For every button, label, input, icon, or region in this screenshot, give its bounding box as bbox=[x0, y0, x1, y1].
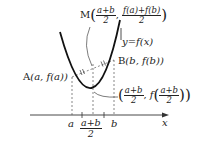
label-M: M(a+b2, f(a)+f(b)2) bbox=[80, 6, 167, 25]
label-curve: y=f(x) bbox=[122, 37, 153, 47]
tick-label-mid: a+b2 bbox=[80, 118, 102, 139]
leader-M bbox=[86, 27, 92, 66]
tick-label-a: a bbox=[68, 119, 74, 129]
diagram: M(a+b2, f(a)+f(b)2) y=f(x) B(b, f(b)) A(… bbox=[0, 0, 206, 153]
tick-label-b: b bbox=[111, 119, 117, 129]
label-B: B(b, f(b)) bbox=[118, 56, 164, 66]
leader-curve-point bbox=[94, 92, 118, 97]
label-A: A(a, f(a)) bbox=[23, 72, 68, 82]
label-curve-point: (a+b2, f(a+b2)) bbox=[118, 86, 191, 105]
curve bbox=[60, 20, 120, 88]
axis-label-x: x bbox=[162, 118, 168, 128]
